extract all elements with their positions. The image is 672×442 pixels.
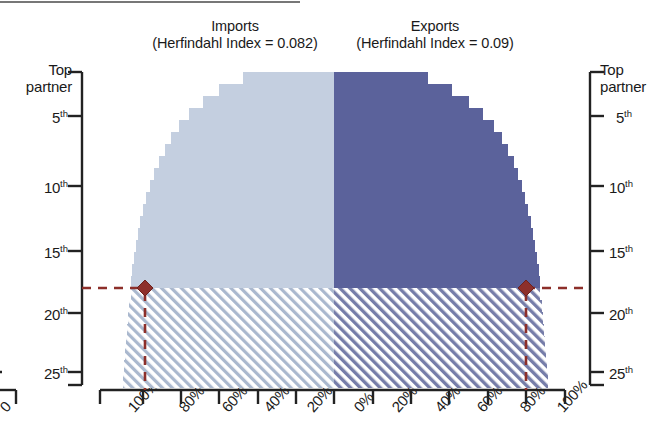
imports-hatched-area	[123, 288, 334, 388]
plot-canvas	[0, 0, 672, 442]
bottom-x-axis	[100, 390, 565, 404]
left-y-axis	[68, 72, 82, 385]
exports-solid-area	[334, 72, 540, 288]
imports-solid-area	[131, 72, 334, 288]
right-y-axis	[590, 72, 604, 385]
chart-root: Imports (Herfindahl Index = 0.082) Expor…	[0, 0, 672, 442]
clipped-left-axis-fragment	[0, 372, 16, 404]
exports-hatched-area	[334, 288, 548, 388]
